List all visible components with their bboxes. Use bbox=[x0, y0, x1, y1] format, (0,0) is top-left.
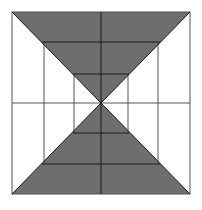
hourglass-diagram bbox=[0, 0, 202, 210]
